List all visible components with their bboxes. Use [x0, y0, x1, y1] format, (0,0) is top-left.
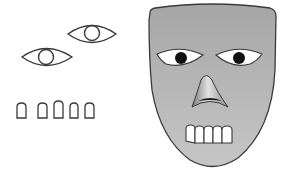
loose-teeth	[17, 101, 94, 118]
tooth-icon	[85, 103, 94, 118]
tooth-icon	[186, 125, 195, 143]
mask-puzzle-illustration	[0, 0, 290, 179]
assembled-mask	[149, 4, 276, 167]
pupil-icon	[175, 52, 187, 64]
pupil-icon	[233, 52, 245, 64]
tooth-icon	[17, 103, 26, 118]
mask-teeth	[186, 125, 232, 143]
loose-eye-left	[22, 49, 72, 66]
tooth-icon	[204, 126, 213, 143]
tooth-icon	[38, 103, 47, 118]
tooth-icon	[70, 103, 78, 118]
tooth-icon	[213, 126, 222, 143]
eye-outline-icon	[22, 49, 72, 66]
tooth-icon	[222, 126, 232, 143]
loose-eye-right	[68, 26, 116, 43]
tooth-icon	[54, 101, 63, 118]
tooth-icon	[195, 126, 204, 143]
